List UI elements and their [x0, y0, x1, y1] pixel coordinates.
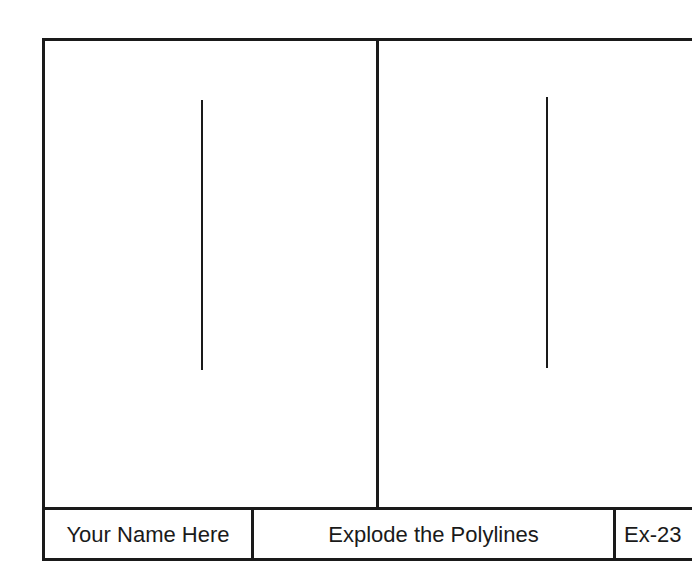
right-polyline[interactable]	[546, 97, 548, 368]
title-block-title: Explode the Polylines	[254, 510, 613, 560]
title-block-divider-2	[613, 507, 616, 561]
frame-top-border	[42, 38, 692, 41]
title-block-exercise: Ex-23	[624, 510, 692, 560]
title-block-name: Your Name Here	[45, 510, 251, 560]
frame-left-border	[42, 38, 45, 561]
left-polyline[interactable]	[201, 100, 203, 370]
panel-divider	[376, 38, 379, 510]
